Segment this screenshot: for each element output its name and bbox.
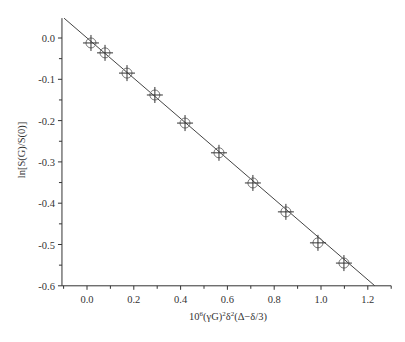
- x-tick-label: 1.2: [361, 294, 374, 305]
- y-tick-label: -0.3: [38, 157, 55, 168]
- y-tick-label: 0.0: [42, 33, 55, 44]
- y-tick-label: -0.5: [38, 240, 55, 251]
- data-point: [310, 235, 326, 251]
- x-tick-label: 1.0: [314, 294, 327, 305]
- x-tick-label: 0.6: [221, 294, 234, 305]
- data-point: [278, 204, 294, 220]
- axes: 0.00.20.40.60.81.01.2 0.0-0.1-0.2-0.3-0.…: [38, 18, 391, 305]
- x-tick-label: 0.0: [80, 294, 93, 305]
- y-tick-label: -0.4: [38, 198, 55, 209]
- x-ticks: 0.00.20.40.60.81.01.2: [64, 286, 392, 305]
- data-point: [245, 175, 261, 191]
- x-tick-label: 0.4: [174, 294, 188, 305]
- data-point: [336, 255, 352, 271]
- data-point: [83, 35, 99, 51]
- y-ticks: 0.0-0.1-0.2-0.3-0.4-0.5-0.6: [38, 33, 62, 292]
- y-tick-label: -0.1: [38, 74, 55, 85]
- x-axis-title: 106(γG)2δ2(Δ−δ/3): [189, 310, 267, 323]
- data-points: [83, 35, 352, 271]
- y-axis-title: ln[S(G)/S(0)]: [16, 122, 28, 179]
- y-tick-label: -0.2: [38, 116, 55, 127]
- x-tick-label: 0.2: [127, 294, 140, 305]
- x-tick-label: 0.8: [268, 294, 281, 305]
- y-tick-label: -0.6: [38, 281, 55, 292]
- chart-canvas: 0.00.20.40.60.81.01.2 0.0-0.1-0.2-0.3-0.…: [0, 0, 405, 342]
